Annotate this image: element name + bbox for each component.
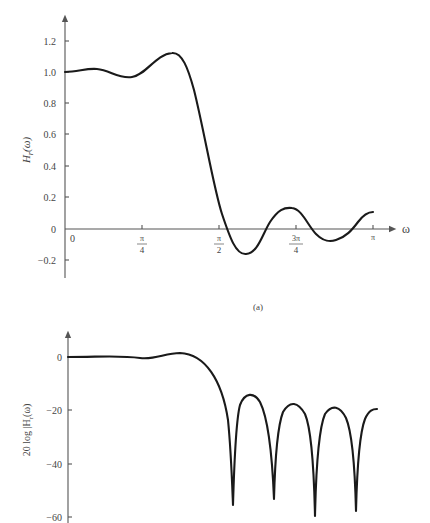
svg-text:Hr(ω): Hr(ω) [20,137,35,165]
y-tick-label: −40 [46,459,62,470]
x-tick-den: 2 [217,245,222,255]
caption-a: (a) [253,302,263,312]
curve-hr [65,53,373,254]
y-tick-label: 0.8 [44,98,57,109]
x-tick-num: π [217,234,221,243]
y-tick-label: 0 [51,224,56,235]
y-axis-label-a: Hr(ω) [20,137,35,165]
y-tick-label: 0.4 [44,161,57,172]
x-axis-label-a: ω [402,222,410,236]
origin-label: 0 [70,233,75,244]
x-tick-num: π [371,233,375,242]
svg-text:20 log |Hr(ω): 20 log |Hr(ω) [21,404,35,457]
x-tick-num: 3π [292,234,300,243]
x-tick-den: 4 [294,245,299,255]
y-tick-label: 0.6 [44,129,57,140]
curve-db [68,353,377,516]
y-tick-label: 1.2 [44,36,57,47]
y-tick-label: −0.2 [38,255,56,266]
y-ticks-a: 1.2 1.0 0.8 0.6 0.4 0.2 0 −0.2 [38,36,69,266]
y-axis-label-b: 20 log |Hr(ω) [21,404,35,457]
chart-b: 0 −20 −40 −60 20 log |Hr(ω) [21,334,377,523]
x-tick-num: π [140,234,144,243]
y-tick-label: −20 [46,405,62,416]
x-tick-den: 4 [140,245,145,255]
y-tick-label: −60 [46,512,62,523]
chart-a: 1.2 1.0 0.8 0.6 0.4 0.2 0 −0.2 0 π 4 π 2… [20,18,410,278]
y-label-arg: (ω) [20,137,33,152]
y-label-main: 20 log |H [21,419,32,456]
y-tick-label: 1.0 [44,67,57,78]
y-tick-label: 0.2 [44,192,57,203]
y-tick-label: 0 [57,352,62,363]
y-label-arg: (ω) [21,404,33,417]
figure-canvas: 1.2 1.0 0.8 0.6 0.4 0.2 0 −0.2 0 π 4 π 2… [0,0,430,523]
